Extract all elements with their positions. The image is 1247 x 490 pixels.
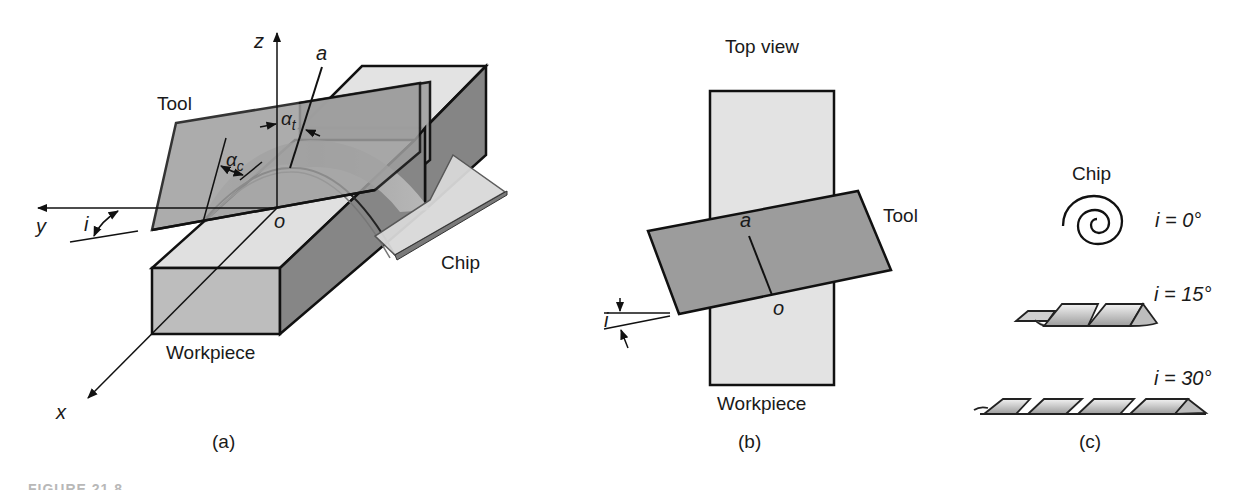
- helix-chip-15-icon: [1016, 304, 1157, 326]
- top-view-title: Top view: [725, 37, 799, 56]
- tool-top-view: [648, 191, 891, 314]
- alpha-t-label: αt: [281, 109, 296, 132]
- panel-a-label: (a): [212, 432, 235, 451]
- origin-label-a: o: [274, 211, 285, 231]
- origin-label-b: o: [773, 298, 784, 318]
- z-axis-label: z: [254, 31, 264, 51]
- helix-chip-30-icon: [974, 399, 1206, 414]
- alpha-c-label: αc: [226, 150, 244, 173]
- inclination-label-a: i: [84, 214, 88, 234]
- inclination-label-b: i: [604, 310, 608, 330]
- chip-i15-label: i = 15°: [1154, 284, 1211, 304]
- inclination-arrow-bottom: [621, 330, 628, 348]
- chip-i0-label: i = 0°: [1155, 210, 1201, 230]
- oblique-cutting-figure: [0, 0, 1247, 490]
- panel-c-label: (c): [1079, 432, 1101, 451]
- figure-caption-partial: FIGURE 21.8: [28, 481, 123, 490]
- chip-i30-label: i = 30°: [1154, 368, 1211, 388]
- workpiece-label-a: Workpiece: [166, 343, 255, 362]
- panel-a: [38, 33, 507, 398]
- tool-label: Tool: [157, 94, 192, 113]
- point-a-label-b: a: [740, 210, 751, 230]
- panel-b-label: (b): [738, 432, 761, 451]
- workpiece-label-b: Workpiece: [717, 394, 806, 413]
- panel-b: [604, 91, 891, 385]
- chip-title-c: Chip: [1072, 164, 1111, 183]
- spiral-chip-icon: [1063, 196, 1122, 244]
- y-axis-label: y: [36, 216, 46, 236]
- x-axis-label: x: [56, 402, 66, 422]
- tool-label-b: Tool: [883, 206, 918, 225]
- point-a-label: a: [316, 43, 327, 63]
- chip-label: Chip: [441, 253, 480, 272]
- inclination-arrow: [94, 211, 118, 236]
